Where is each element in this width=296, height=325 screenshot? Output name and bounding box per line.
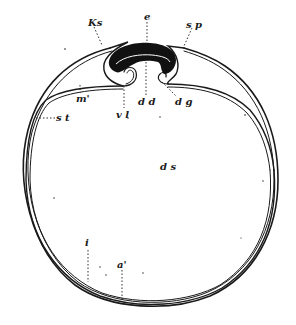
embryo-yolk-sac-figure: Ks e s p m' v l d d d g s t d s i a' [0, 0, 296, 325]
label-a: a' [117, 260, 127, 270]
label-m: m' [76, 94, 90, 104]
label-st: s t [56, 113, 70, 123]
label-ks: Ks [88, 18, 102, 28]
leader-sp [184, 28, 192, 46]
label-vl: v l [116, 110, 129, 120]
leader-ks [94, 27, 102, 45]
label-dd: d d [138, 97, 155, 107]
figure-drawing [0, 0, 296, 325]
label-e: e [144, 12, 150, 22]
label-sp: s p [186, 20, 202, 30]
label-dg: d g [175, 97, 192, 107]
outer-membrane [23, 48, 278, 306]
label-ds: d s [160, 162, 176, 172]
label-i: i [85, 238, 89, 248]
